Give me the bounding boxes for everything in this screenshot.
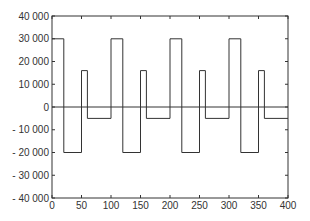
y-tick-label: 20 000 <box>18 56 49 67</box>
x-tick-label: 400 <box>280 200 297 211</box>
x-tick-label: 200 <box>162 200 179 211</box>
y-tick-label: - 20 000 <box>12 147 49 158</box>
y-tick-label: - 30 000 <box>12 170 49 181</box>
x-tick-label: 250 <box>191 200 208 211</box>
y-tick-label: 40 000 <box>18 11 49 22</box>
x-tick-label: 0 <box>49 200 55 211</box>
x-tick-label: 100 <box>103 200 120 211</box>
data-series <box>52 39 288 153</box>
step-signal-line <box>52 39 288 153</box>
x-tick-label: 350 <box>250 200 267 211</box>
x-tick-label: 300 <box>221 200 238 211</box>
y-tick-label: 0 <box>43 102 49 113</box>
step-chart: 40 00030 00020 00010 0000- 10 000- 20 00… <box>0 0 310 221</box>
y-tick-label: - 10 000 <box>12 124 49 135</box>
x-tick-label: 50 <box>76 200 88 211</box>
x-tick-label: 150 <box>132 200 149 211</box>
y-tick-label: 30 000 <box>18 33 49 44</box>
x-axis: 050100150200250300350400 <box>49 16 297 211</box>
y-tick-label: 10 000 <box>18 79 49 90</box>
y-tick-label: - 40 000 <box>12 193 49 204</box>
